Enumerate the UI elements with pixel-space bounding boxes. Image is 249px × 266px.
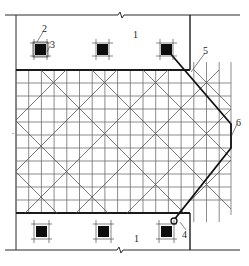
callout-label-3: 3 bbox=[50, 39, 55, 50]
left-edge-mark: ˜ bbox=[12, 132, 14, 138]
region-label-top: 1 bbox=[133, 29, 138, 40]
callout-label-4: 4 bbox=[182, 229, 187, 240]
column-bottom-1 bbox=[31, 220, 52, 243]
callout-label-2: 2 bbox=[42, 23, 47, 34]
region-label-bottom: 1 bbox=[134, 233, 139, 244]
diagonal-bracing bbox=[16, 70, 231, 213]
column-top-2 bbox=[92, 39, 113, 60]
bottom-columns bbox=[31, 220, 177, 243]
column-bottom-3 bbox=[156, 220, 177, 243]
callout-label-5: 5 bbox=[203, 45, 208, 56]
floor-grid-diagram: 1 1 2 3 4 5 6 ˜ bbox=[0, 0, 249, 266]
callout-label-6: 6 bbox=[236, 117, 241, 128]
column-top-1 bbox=[30, 39, 51, 60]
bottom-break-line bbox=[5, 247, 240, 253]
top-break-line bbox=[5, 12, 240, 18]
column-bottom-2 bbox=[93, 220, 114, 243]
